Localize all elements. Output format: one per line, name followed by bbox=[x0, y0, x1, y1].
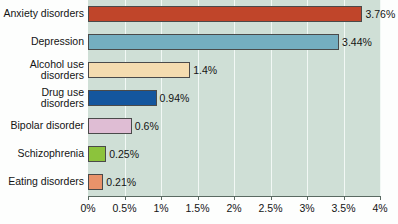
x-axis-tick bbox=[344, 196, 345, 200]
category-label: Drug use disorders bbox=[0, 87, 84, 110]
category-label: Schizophrenia bbox=[0, 148, 84, 160]
bar-value-label: 0.6% bbox=[135, 118, 159, 135]
bar-row: Bipolar disorder0.6% bbox=[0, 112, 398, 140]
bar-row: Anxiety disorders3.76% bbox=[0, 0, 398, 28]
x-axis-tick bbox=[161, 196, 162, 200]
bar-value-label: 0.25% bbox=[109, 146, 139, 163]
bar-value-label: 1.4% bbox=[193, 62, 217, 79]
bar bbox=[88, 90, 157, 106]
x-axis-tick bbox=[271, 196, 272, 200]
category-label: Bipolar disorder bbox=[0, 120, 84, 132]
x-axis-tick bbox=[307, 196, 308, 200]
bar-row: Alcohol use disorders1.4% bbox=[0, 56, 398, 84]
bar-value-label: 3.44% bbox=[342, 34, 372, 51]
category-label: Anxiety disorders bbox=[0, 8, 84, 20]
x-axis-tick-label: 1.5% bbox=[186, 202, 210, 214]
x-axis-tick bbox=[198, 196, 199, 200]
x-axis-tick bbox=[234, 196, 235, 200]
x-axis-tick bbox=[88, 196, 89, 200]
x-axis-tick-label: 2% bbox=[226, 202, 241, 214]
bar-row: Eating disorders0.21% bbox=[0, 168, 398, 196]
category-label: Eating disorders bbox=[0, 176, 84, 188]
x-axis-tick bbox=[380, 196, 381, 200]
bar bbox=[88, 6, 362, 22]
bar bbox=[88, 62, 190, 78]
bar-row: Depression3.44% bbox=[0, 28, 398, 56]
bar-value-label: 0.21% bbox=[106, 174, 136, 191]
x-axis-tick-label: 0.5% bbox=[113, 202, 137, 214]
x-axis-tick bbox=[125, 196, 126, 200]
category-label: Alcohol use disorders bbox=[0, 59, 84, 82]
x-axis-tick-label: 3% bbox=[299, 202, 314, 214]
x-axis-tick-label: 4% bbox=[372, 202, 387, 214]
bar-row: Drug use disorders0.94% bbox=[0, 84, 398, 112]
bar-row: Schizophrenia0.25% bbox=[0, 140, 398, 168]
bar-chart: Anxiety disorders3.76%Depression3.44%Alc… bbox=[0, 0, 398, 224]
bar bbox=[88, 118, 132, 134]
bar-value-label: 0.94% bbox=[160, 90, 190, 107]
bar bbox=[88, 174, 103, 190]
bar-value-label: 3.76% bbox=[365, 6, 395, 23]
bar bbox=[88, 34, 339, 50]
bar bbox=[88, 146, 106, 162]
x-axis-tick-label: 2.5% bbox=[259, 202, 283, 214]
x-axis-tick-label: 1% bbox=[153, 202, 168, 214]
x-axis-tick-label: 0% bbox=[80, 202, 95, 214]
x-axis-tick-label: 3.5% bbox=[332, 202, 356, 214]
category-label: Depression bbox=[0, 36, 84, 48]
